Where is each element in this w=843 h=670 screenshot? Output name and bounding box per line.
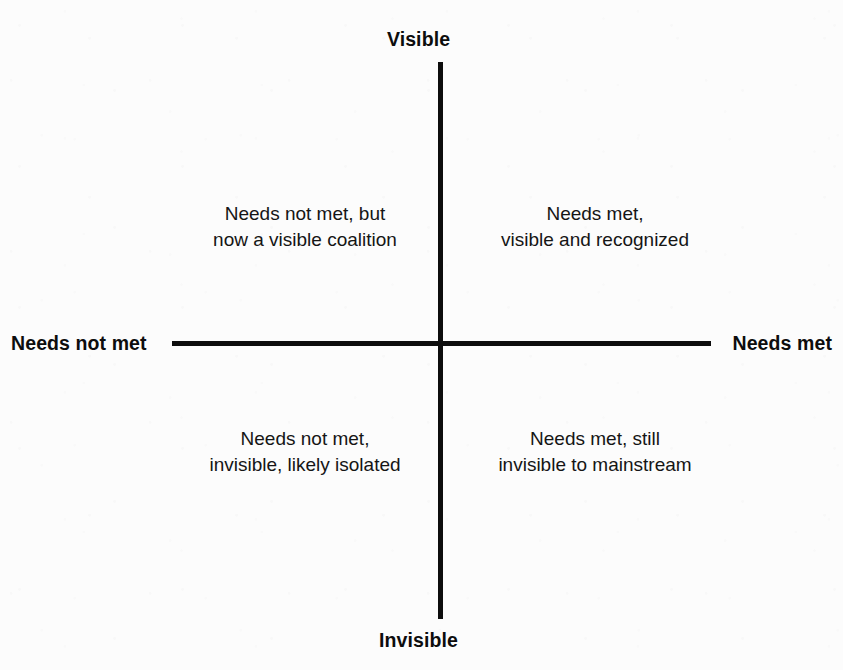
axis-label-needs-not-met: Needs not met <box>11 332 147 355</box>
quadrant-diagram: Visible Invisible Needs not met Needs me… <box>0 0 843 670</box>
quadrant-label-bottom-right: Needs met, still invisible to mainstream <box>450 426 740 478</box>
quadrant-label-top-right: Needs met, visible and recognized <box>450 201 740 253</box>
axis-label-visible: Visible <box>0 28 840 51</box>
quadrant-label-bottom-left: Needs not met, invisible, likely isolate… <box>160 426 450 478</box>
horizontal-axis-line <box>172 341 711 346</box>
quadrant-label-top-left: Needs not met, but now a visible coaliti… <box>160 201 450 253</box>
axis-label-invisible: Invisible <box>0 629 840 652</box>
axis-label-needs-met: Needs met <box>732 332 832 355</box>
